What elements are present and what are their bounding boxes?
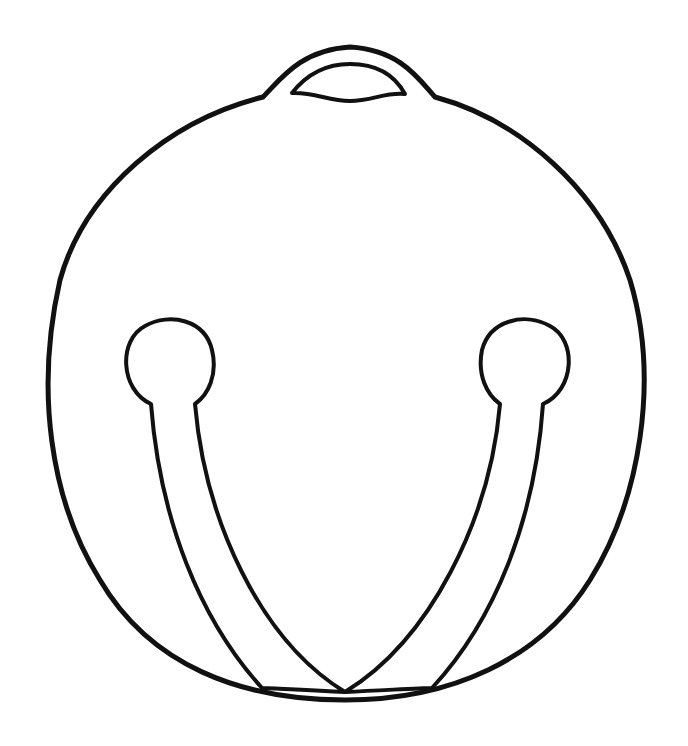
bell-loop-hole	[292, 64, 405, 101]
bell-left-slot	[126, 319, 345, 692]
bell-right-slot	[345, 319, 569, 692]
bell-body-outline	[48, 47, 644, 700]
jingle-bell-icon	[0, 0, 688, 746]
jingle-bell-drawing	[0, 0, 688, 746]
